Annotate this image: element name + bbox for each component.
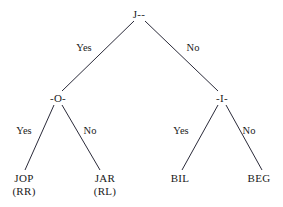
tree-edge-layer — [0, 0, 283, 207]
leaf-beg-name: BEG — [248, 172, 271, 185]
edge-left-internal-to-leaf-jop — [25, 105, 54, 170]
edge-right-internal-to-leaf-bil — [182, 105, 218, 170]
leaf-jar-name: JAR — [94, 172, 117, 185]
decision-tree-diagram: J-- -O- -I- JOP (RR) JAR (RL) BIL BEG Ye… — [0, 0, 283, 207]
edge-left-internal-to-leaf-jar — [62, 105, 100, 170]
edge-root-to-left-internal — [62, 21, 134, 91]
leaf-jop-sublabel: (RR) — [12, 185, 35, 198]
edge-label-root-yes: Yes — [76, 42, 91, 53]
edge-root-to-right-internal — [145, 21, 218, 91]
leaf-jop-name: JOP — [12, 172, 35, 185]
leaf-bil-name: BIL — [171, 172, 190, 185]
leaf-node-bil: BIL — [171, 172, 190, 185]
edge-right-internal-to-leaf-beg — [226, 105, 262, 170]
edge-label-root-no: No — [187, 42, 200, 53]
node-root: J-- — [133, 8, 146, 20]
node-right-internal: -I- — [216, 92, 228, 104]
edge-label-right-no: No — [243, 125, 256, 136]
edge-label-right-yes: Yes — [173, 125, 188, 136]
leaf-node-jop: JOP (RR) — [12, 172, 35, 198]
edge-label-left-yes: Yes — [16, 125, 31, 136]
node-left-internal: -O- — [50, 92, 66, 104]
leaf-node-beg: BEG — [248, 172, 271, 185]
leaf-jar-sublabel: (RL) — [94, 185, 117, 198]
edge-label-left-no: No — [84, 125, 97, 136]
leaf-node-jar: JAR (RL) — [94, 172, 117, 198]
